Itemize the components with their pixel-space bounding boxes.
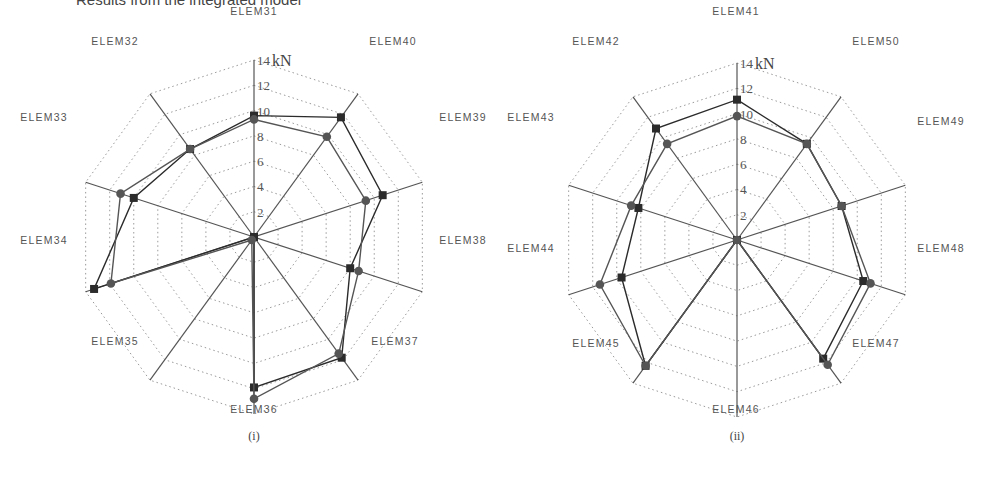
- axis-line: [254, 182, 422, 237]
- square-marker: [337, 113, 345, 121]
- circle-marker: [334, 349, 343, 358]
- circle-marker: [362, 196, 371, 205]
- category-label: ELEM41: [712, 5, 759, 17]
- circle-marker: [866, 279, 875, 288]
- tick-label: 2: [257, 205, 264, 220]
- circle-marker: [250, 115, 259, 124]
- square-marker: [652, 125, 660, 133]
- circle-marker: [823, 360, 832, 369]
- category-label: ELEM44: [507, 242, 554, 254]
- circle-marker: [596, 280, 605, 289]
- circle-marker: [250, 395, 259, 404]
- square-marker: [346, 264, 354, 272]
- circle-marker: [803, 140, 812, 149]
- axis-line: [150, 237, 254, 380]
- square-marker: [130, 194, 138, 202]
- category-label: ELEM36: [230, 403, 277, 415]
- circle-marker: [837, 202, 846, 211]
- category-label: ELEM39: [439, 111, 486, 123]
- chart-caption: (ii): [730, 429, 745, 443]
- circle-marker: [641, 362, 650, 371]
- axis-line: [737, 185, 905, 240]
- category-label: ELEM31: [230, 5, 277, 17]
- category-label: ELEM46: [712, 403, 759, 415]
- square-marker: [379, 191, 387, 199]
- unit-label: kN: [755, 55, 775, 72]
- circle-marker: [627, 201, 636, 210]
- axis-line: [737, 240, 905, 295]
- tick-label: 2: [740, 208, 747, 223]
- tick-label: 6: [257, 154, 264, 169]
- category-label: ELEM47: [852, 337, 899, 349]
- circle-marker: [733, 236, 742, 245]
- axis-line: [254, 237, 422, 292]
- circle-marker: [186, 145, 195, 154]
- tick-label: 4: [257, 179, 264, 194]
- tick-label: 6: [740, 157, 747, 172]
- tick-label: 12: [740, 81, 753, 96]
- square-marker: [733, 96, 741, 104]
- tick-label: 8: [740, 132, 747, 147]
- category-label: ELEM33: [20, 111, 67, 123]
- radar-chart-2: 2468101214kNELEM41ELEM50ELEM49ELEM48ELEM…: [507, 5, 964, 443]
- tick-label: 14: [257, 53, 271, 68]
- axis-line: [569, 185, 737, 240]
- category-label: ELEM45: [572, 337, 619, 349]
- circle-marker: [733, 112, 742, 121]
- square-marker: [90, 285, 98, 293]
- chart-caption: (i): [248, 429, 259, 443]
- circle-marker: [247, 236, 256, 245]
- square-marker: [618, 274, 626, 282]
- circle-marker: [663, 140, 672, 149]
- square-marker: [634, 204, 642, 212]
- tick-label: 12: [257, 78, 270, 93]
- category-label: ELEM32: [91, 35, 138, 47]
- category-label: ELEM38: [439, 234, 486, 246]
- circle-marker: [107, 279, 116, 288]
- tick-label: 14: [740, 56, 754, 71]
- category-label: ELEM40: [369, 35, 416, 47]
- circle-marker: [323, 132, 332, 141]
- category-label: ELEM49: [917, 115, 964, 127]
- category-label: ELEM37: [371, 335, 418, 347]
- category-label: ELEM35: [91, 335, 138, 347]
- unit-label: kN: [272, 52, 292, 69]
- axis-line: [86, 182, 254, 237]
- category-label: ELEM43: [507, 111, 554, 123]
- category-label: ELEM50: [852, 35, 899, 47]
- circle-marker: [116, 189, 125, 198]
- axis-line: [569, 240, 737, 295]
- radar-chart-1: 2468101214kNELEM31ELEM40ELEM39ELEM38ELEM…: [20, 5, 486, 443]
- tick-label: 4: [740, 182, 747, 197]
- circle-marker: [354, 267, 363, 276]
- category-label: ELEM42: [572, 35, 619, 47]
- category-label: ELEM34: [20, 234, 67, 246]
- square-marker: [859, 277, 867, 285]
- radar-charts-figure: 2468101214kNELEM31ELEM40ELEM39ELEM38ELEM…: [0, 0, 993, 500]
- tick-label: 8: [257, 129, 264, 144]
- category-label: ELEM48: [917, 242, 964, 254]
